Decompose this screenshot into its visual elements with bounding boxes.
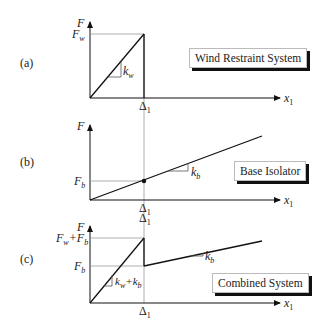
panel-b-x-label: x1 [283, 193, 293, 209]
panel-c-delta1-label: Δ1 [139, 304, 151, 320]
panel-b-fb-label: Fb [73, 174, 85, 190]
panel-a-x-label: x1 [283, 91, 293, 107]
panel-a-delta1-label: Δ1 [139, 99, 151, 115]
wind-restraint-system-label: Wind Restraint System [189, 48, 307, 68]
panel-c-tag: (c) [20, 252, 33, 266]
panel-a-slope-label: kw [123, 64, 134, 80]
panel-c-combined-stiffness-line [90, 238, 144, 303]
panel-c: (c) F Fw+Fb Fb kw+kb kb Δ1 Δ1 x1 [20, 211, 293, 320]
panel-a-stiffness-line [90, 34, 144, 98]
panel-c-fb-label: Fb [73, 259, 85, 275]
panel-b-slope-label: kb [191, 165, 200, 181]
panel-b-delta1-point [142, 179, 146, 183]
panel-c-slope-label-1: kw+kb [115, 275, 142, 290]
base-isolator-label: Base Isolator [234, 161, 306, 181]
panel-b-tag: (b) [20, 155, 34, 169]
panel-b-y-label: F [76, 119, 85, 133]
panel-c-x-label: x1 [283, 296, 293, 312]
panel-a-tag: (a) [20, 56, 33, 70]
combined-system-label: Combined System [212, 273, 309, 293]
panel-c-fwfb-label: Fw+Fb [55, 231, 88, 247]
